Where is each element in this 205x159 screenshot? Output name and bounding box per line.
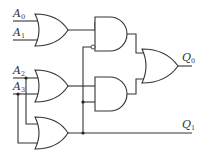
or-gate-4 <box>142 49 178 83</box>
or-gate-2 <box>35 70 68 102</box>
svg-text:A0: A0 <box>12 7 25 21</box>
svg-text:A3: A3 <box>12 80 25 94</box>
input-label-a1: A1 <box>12 26 25 40</box>
input-label-a3: A3 <box>12 80 25 94</box>
svg-text:A2: A2 <box>12 64 25 78</box>
wire-or1-to-and1 <box>68 22 95 30</box>
or-gate-1 <box>35 14 68 46</box>
junction-a3 <box>16 92 19 95</box>
junction-or3-and2 <box>81 100 84 103</box>
or-gate-3 <box>35 117 68 149</box>
and-gate-1 <box>95 17 127 51</box>
input-label-a2: A2 <box>12 64 25 78</box>
logic-circuit-diagram: A0 A1 A2 A3 Q0 Q1 <box>0 0 205 159</box>
input-label-a0: A0 <box>12 7 25 21</box>
svg-text:Q0: Q0 <box>182 51 195 65</box>
junction-a2 <box>24 76 27 79</box>
inversion-bubble <box>91 45 95 49</box>
and-gate-2 <box>95 77 127 111</box>
svg-text:A1: A1 <box>12 26 25 40</box>
svg-text:Q1: Q1 <box>182 118 195 132</box>
junction-or3-out <box>81 131 84 134</box>
output-label-q1: Q1 <box>182 118 195 132</box>
output-label-q0: Q0 <box>182 51 195 65</box>
wire-or3-vertical <box>83 47 93 133</box>
